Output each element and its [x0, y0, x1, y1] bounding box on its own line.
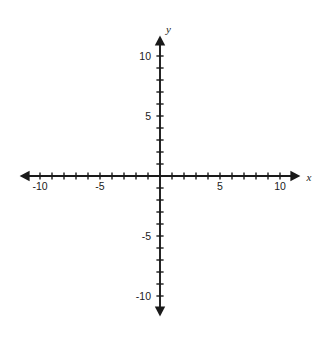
y-tick-label-5: 5 — [145, 110, 151, 122]
y-axis-label: y — [165, 23, 171, 35]
coordinate-plane: -10 -5 5 10 10 5 -5 -10 x y — [0, 0, 334, 345]
y-tick-label-10: 10 — [139, 50, 151, 62]
axis-names: x y — [165, 23, 311, 183]
x-tick-label-10: 10 — [274, 180, 286, 192]
x-tick-label-5: 5 — [217, 180, 223, 192]
y-tick-label-neg-5: -5 — [142, 230, 151, 242]
coordinate-plane-svg: -10 -5 5 10 10 5 -5 -10 x y — [0, 0, 334, 345]
x-tick-label-neg-10: -10 — [32, 180, 47, 192]
y-tick-label-neg-10: -10 — [136, 290, 151, 302]
x-tick-label-neg-5: -5 — [95, 180, 104, 192]
x-axis-label: x — [305, 171, 311, 183]
